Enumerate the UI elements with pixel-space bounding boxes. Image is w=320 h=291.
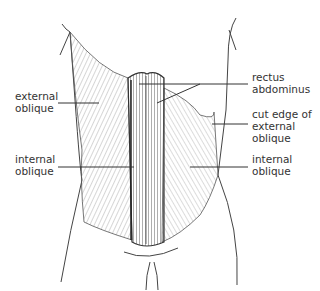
label-external-oblique: external oblique [15,90,58,114]
internal-oblique-right-muscle [162,88,218,242]
abdominal-muscles-diagram: external oblique internal oblique rectus… [0,0,320,291]
label-rectus-abdominus: rectus abdominus [252,71,310,95]
label-cut-edge-external-oblique: cut edge of external oblique [252,108,312,144]
torso-illustration [0,0,320,291]
label-internal-oblique-right: internal oblique [252,153,292,177]
label-internal-oblique-left: internal oblique [15,153,55,177]
external-oblique-left-muscle [70,32,132,240]
